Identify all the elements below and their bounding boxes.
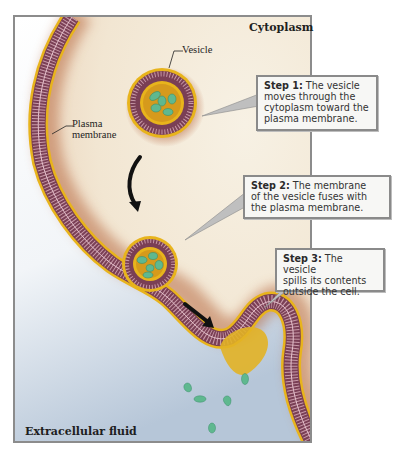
step2-title: Step 2: (251, 180, 290, 191)
step1-line4: plasma membrane. (264, 113, 357, 124)
step2-callout: Step 2: The membrane of the vesicle fuse… (243, 175, 391, 219)
fusing-vesicle (122, 236, 178, 292)
plasma-membrane-label-line2: membrane (72, 129, 116, 140)
step3-line2: spills its contents (283, 275, 366, 286)
step3-title: Step 3: (283, 253, 322, 264)
step1-callout: Step 1: The vesicle moves through the cy… (256, 75, 378, 131)
step2-line1: The membrane (293, 180, 366, 191)
step1-line1: The vesicle (306, 80, 360, 91)
plasma-membrane-label: Plasma membrane (72, 118, 116, 140)
step2-line3: the plasma membrane. (251, 202, 363, 213)
cytoplasm-label: Cytoplasm (249, 21, 313, 34)
step1-title: Step 1: (264, 80, 303, 91)
vesicle (125, 67, 205, 147)
exocytosis-diagram: Cytoplasm Extracellular fluid Vesicle Pl… (0, 0, 395, 456)
step3-callout: Step 3: The vesicle spills its contents … (275, 248, 385, 292)
step1-line2: moves through the (264, 91, 355, 102)
plasma-membrane-label-line1: Plasma (72, 118, 116, 129)
step1-line3: cytoplasm toward the (264, 102, 369, 113)
vesicle-label: Vesicle (182, 44, 212, 55)
step2-line2: of the vesicle fuses with (251, 191, 367, 202)
extracellular-fluid-label: Extracellular fluid (25, 425, 137, 438)
step3-line3: outside the cell. (283, 286, 360, 297)
